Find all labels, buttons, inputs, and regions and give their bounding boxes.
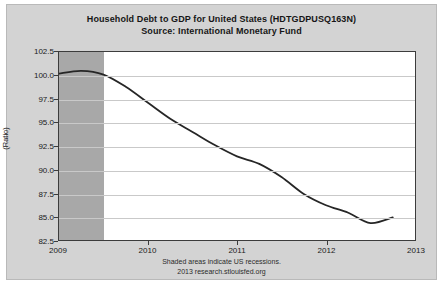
series-line-chart (59, 52, 415, 240)
chart-subtitle: Source: International Monetary Fund (7, 25, 436, 37)
y-tick-label: 95.0 (10, 118, 54, 127)
gridline (59, 76, 415, 77)
gridline (59, 195, 415, 196)
y-axis: 102.5100.097.595.092.590.087.585.082.5 (7, 51, 54, 241)
x-tick-mark (148, 241, 149, 245)
y-axis-title: (Ratio) (1, 127, 10, 150)
y-tick-label: 102.5 (10, 47, 54, 56)
gridline (59, 100, 415, 101)
gridline (59, 123, 415, 124)
y-tick-label: 90.0 (10, 166, 54, 175)
y-tick-label: 100.0 (10, 71, 54, 80)
x-tick-label: 2013 (407, 246, 425, 255)
x-tick-label: 2011 (228, 246, 245, 255)
recession-note: Shaded areas indicate US recessions. (7, 257, 436, 267)
x-axis: 20092010201120122013 (58, 241, 416, 257)
x-tick-label: 2010 (139, 246, 157, 255)
x-tick-label: 2009 (49, 246, 67, 255)
chart-footnotes: Shaded areas indicate US recessions. 201… (7, 257, 436, 276)
y-tick-label: 92.5 (10, 142, 54, 151)
y-tick-label: 85.0 (10, 213, 54, 222)
chart-title: Household Debt to GDP for United States … (7, 13, 436, 25)
chart-container: Household Debt to GDP for United States … (6, 4, 437, 280)
gridline (59, 171, 415, 172)
x-tick-label: 2012 (318, 246, 336, 255)
y-tick-label: 82.5 (10, 237, 54, 246)
source-note: 2013 research.stlouisfed.org (7, 267, 436, 277)
x-tick-mark (237, 241, 238, 245)
y-tick-label: 97.5 (10, 95, 54, 104)
y-tick-label: 87.5 (10, 190, 54, 199)
gridline (59, 218, 415, 219)
plot-area (58, 51, 416, 241)
x-tick-mark (327, 241, 328, 245)
gridline (59, 147, 415, 148)
chart-title-block: Household Debt to GDP for United States … (7, 13, 436, 37)
